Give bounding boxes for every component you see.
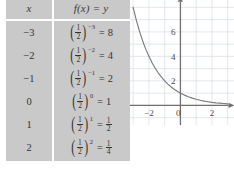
- cell-x-value: 2: [6, 136, 52, 159]
- base-numerator: 1: [77, 93, 83, 101]
- equals-sign: =: [99, 50, 105, 61]
- base-denominator: 2: [77, 148, 83, 156]
- cell-x-value: 1: [6, 113, 52, 136]
- result-numerator: 1: [107, 117, 111, 125]
- column-header-fx: f(x) = y: [52, 2, 130, 14]
- result-denominator: 2: [107, 125, 111, 133]
- table-row: 2(12)2=14: [6, 136, 130, 159]
- exponent: −1: [88, 69, 95, 76]
- table-row: −3(12)−3=8: [6, 21, 130, 44]
- result-value: 4: [108, 50, 113, 61]
- result-value: 2: [108, 73, 113, 84]
- equals-sign: =: [97, 96, 103, 107]
- equals-sign: =: [99, 73, 105, 84]
- figure-container: x f(x) = y −3(12)−3=8−2(12)−2=4−1(12)−1=…: [0, 0, 234, 170]
- axes: [130, 0, 234, 125]
- table-row: 0(12)0=1: [6, 90, 130, 113]
- y-tick-label: 6: [171, 27, 176, 37]
- cell-x-value: 0: [6, 90, 52, 113]
- base-numerator: 1: [77, 116, 83, 124]
- base-denominator: 2: [75, 79, 81, 87]
- table-row: −2(12)−2=4: [6, 44, 130, 67]
- table-header-row: x f(x) = y: [6, 0, 130, 19]
- cell-fx-expression: (12)0=1: [52, 90, 130, 113]
- table-row: 1(12)1=12: [6, 113, 130, 136]
- base-fraction: 12: [75, 47, 81, 64]
- exponential-decay-plot: −202246 xy: [130, 0, 234, 170]
- cell-fx-expression: (12)1=12: [52, 113, 130, 136]
- base-numerator: 1: [75, 24, 81, 32]
- x-tick-label: −2: [144, 108, 154, 118]
- exponent: 0: [90, 92, 93, 99]
- y-tick-label: 4: [171, 52, 176, 62]
- result-fraction: 14: [106, 140, 112, 156]
- cell-fx-expression: (12)−2=4: [52, 44, 130, 67]
- result-fraction: 12: [106, 117, 112, 133]
- equals-sign: =: [97, 119, 103, 130]
- exponent: −3: [88, 23, 95, 30]
- y-axis-arrowhead: [178, 0, 183, 2]
- exponent: 1: [90, 115, 93, 122]
- x-axis-arrowhead: [228, 103, 234, 108]
- base-numerator: 1: [75, 70, 81, 78]
- base-fraction: 12: [77, 139, 83, 156]
- base-fraction: 12: [75, 24, 81, 41]
- result-numerator: 1: [107, 140, 111, 148]
- cell-fx-expression: (12)−3=8: [52, 21, 130, 44]
- column-header-x: x: [6, 2, 52, 14]
- base-numerator: 1: [77, 139, 83, 147]
- result-value: 8: [108, 27, 113, 38]
- axis-labels: xy: [182, 0, 234, 111]
- base-denominator: 2: [75, 33, 81, 41]
- cell-x-value: −3: [6, 21, 52, 44]
- x-tick-label: 0: [176, 108, 181, 118]
- equals-sign: =: [99, 27, 105, 38]
- exponent: −2: [88, 46, 95, 53]
- cell-fx-expression: (12)2=14: [52, 136, 130, 159]
- cell-fx-expression: (12)−1=2: [52, 67, 130, 90]
- base-numerator: 1: [75, 47, 81, 55]
- x-tick-label: 2: [210, 108, 215, 118]
- base-fraction: 12: [77, 116, 83, 133]
- tick-labels: −202246: [144, 27, 214, 118]
- grid-lines: [130, 0, 234, 125]
- value-table: x f(x) = y −3(12)−3=8−2(12)−2=4−1(12)−1=…: [6, 0, 130, 161]
- result-value: 1: [106, 96, 111, 107]
- base-fraction: 12: [75, 70, 81, 87]
- table-row: −1(12)−1=2: [6, 67, 130, 90]
- y-tick-label: 2: [171, 76, 176, 86]
- graph-panel: −202246 xy: [130, 0, 234, 170]
- base-denominator: 2: [75, 56, 81, 64]
- cell-x-value: −1: [6, 67, 52, 90]
- base-fraction: 12: [77, 93, 83, 110]
- base-denominator: 2: [77, 102, 83, 110]
- cell-x-value: −2: [6, 44, 52, 67]
- exponent: 2: [90, 138, 93, 145]
- result-denominator: 4: [107, 148, 111, 156]
- equals-sign: =: [97, 142, 103, 153]
- base-denominator: 2: [77, 125, 83, 133]
